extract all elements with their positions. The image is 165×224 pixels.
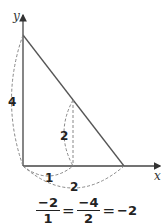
- y-axis-label: y: [12, 9, 20, 23]
- label-run-1: 1: [45, 171, 53, 185]
- slope-diagram: y x 4 2 1 2: [0, 0, 165, 224]
- fraction-2: −4 2: [77, 196, 101, 224]
- fraction-1: −2 1: [36, 196, 60, 224]
- fraction-2-numerator: −4: [77, 196, 101, 211]
- equals-sign: =: [62, 202, 75, 220]
- label-run-2: 2: [70, 180, 78, 194]
- fraction-1-denominator: 1: [43, 211, 52, 224]
- fraction-2-denominator: 2: [84, 211, 93, 224]
- slope-equation: −2 1 = −4 2 = −2: [36, 196, 137, 224]
- x-axis-label: x: [154, 169, 161, 183]
- label-rise-2: 2: [60, 129, 68, 143]
- slope-result: −2: [117, 203, 137, 218]
- fraction-1-numerator: −2: [36, 196, 60, 211]
- label-rise-4: 4: [8, 95, 16, 109]
- equals-sign: =: [102, 202, 115, 220]
